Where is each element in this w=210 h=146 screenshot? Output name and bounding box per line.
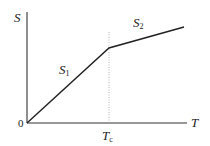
diagram: S T 0 Tc S1 S2 [0, 0, 210, 146]
entropy-temperature-plot: S T 0 Tc S1 S2 [0, 0, 210, 146]
origin-label: 0 [18, 117, 24, 129]
tc-label: Tc [102, 128, 113, 144]
s2-label: S2 [133, 15, 144, 31]
x-axis-label: T [191, 115, 199, 130]
s1-label: S1 [59, 62, 70, 78]
y-axis-label: S [14, 10, 21, 25]
s-curve [27, 27, 184, 123]
